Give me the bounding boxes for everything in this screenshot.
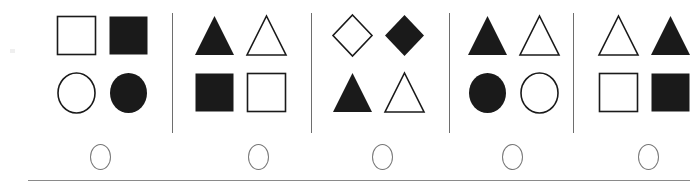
shape-grid <box>55 12 153 120</box>
filled-circle-icon <box>107 69 151 119</box>
panel-divider-1 <box>172 13 173 133</box>
outline-triangle-icon <box>597 12 641 62</box>
answer-bubble-a[interactable] <box>90 144 111 170</box>
outline-square-icon <box>55 12 99 62</box>
filled-triangle-icon <box>649 12 693 62</box>
answer-bubble-row <box>0 144 695 174</box>
outline-circle-icon <box>55 69 99 119</box>
filled-square-icon <box>193 69 237 119</box>
shape-grid <box>597 12 695 120</box>
outline-circle-icon <box>518 69 562 119</box>
filled-triangle-icon <box>466 12 510 62</box>
outline-square-icon <box>597 69 641 119</box>
filled-circle-icon <box>466 69 510 119</box>
shape-panel-d <box>466 12 564 120</box>
shape-matrix-test-item <box>0 0 695 194</box>
panel-divider-4 <box>573 13 574 133</box>
filled-triangle-icon <box>331 69 375 119</box>
filled-triangle-icon <box>193 12 237 62</box>
answer-bubble-b[interactable] <box>248 144 269 170</box>
bottom-rule <box>28 180 690 181</box>
shape-panel-b <box>193 12 291 120</box>
outline-square-icon <box>245 69 289 119</box>
outline-triangle-icon <box>518 12 562 62</box>
outline-triangle-icon <box>383 69 427 119</box>
shape-panel-a <box>55 12 153 120</box>
shape-panel-e <box>597 12 695 120</box>
outline-triangle-icon <box>245 12 289 62</box>
filled-square-icon <box>107 12 151 62</box>
panel-row <box>0 0 695 140</box>
answer-bubble-e[interactable] <box>638 144 659 170</box>
shape-panel-c <box>331 12 429 120</box>
shape-grid <box>331 12 429 120</box>
shape-grid <box>466 12 564 120</box>
outline-diamond-icon <box>331 12 375 62</box>
answer-bubble-c[interactable] <box>372 144 393 170</box>
answer-bubble-d[interactable] <box>502 144 523 170</box>
panel-divider-2 <box>311 13 312 133</box>
panel-divider-3 <box>449 13 450 133</box>
filled-diamond-icon <box>383 12 427 62</box>
filled-square-icon <box>649 69 693 119</box>
shape-grid <box>193 12 291 120</box>
